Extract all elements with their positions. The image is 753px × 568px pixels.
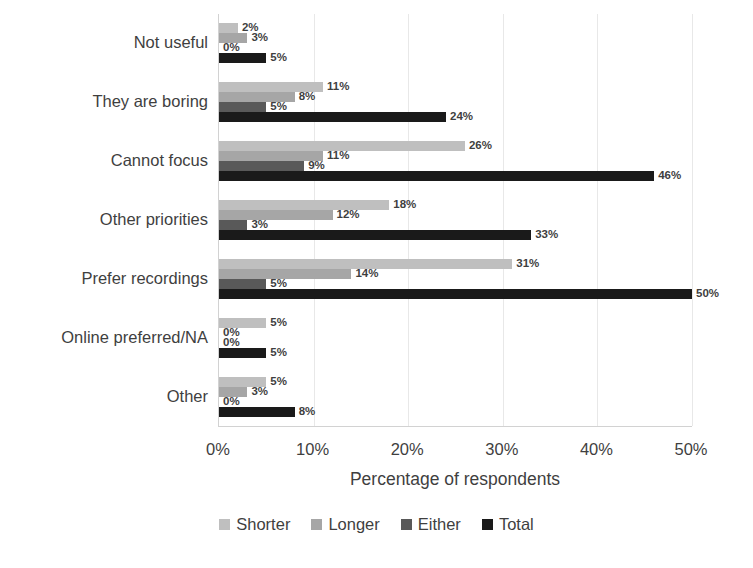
bar-row: 0% [219, 43, 692, 53]
bar-row: 8% [219, 92, 692, 102]
bar [219, 348, 266, 358]
bar-value-label: 46% [658, 170, 681, 182]
bar-row: 3% [219, 33, 692, 43]
category-label: Cannot focus [0, 152, 208, 169]
legend-label: Total [499, 516, 534, 533]
bar [219, 200, 389, 210]
legend-label: Longer [328, 516, 379, 533]
bar-row: 9% [219, 161, 692, 171]
category-label: Not useful [0, 34, 208, 51]
chart-legend: ShorterLongerEitherTotal [0, 516, 753, 533]
bar-row: 46% [219, 171, 692, 181]
bar-group: 2%3%0%5% [219, 23, 692, 63]
bar [219, 171, 654, 181]
bar-row: 11% [219, 151, 692, 161]
bar-group: 31%14%5%50% [219, 259, 692, 299]
bar-group: 26%11%9%46% [219, 141, 692, 181]
bar [219, 289, 692, 299]
x-axis-line [218, 426, 692, 427]
category-label: Other priorities [0, 211, 208, 228]
x-axis-tick-labels: 0%10%20%30%40%50% [0, 440, 753, 466]
bar-value-label: 5% [270, 53, 287, 65]
legend-swatch-icon [401, 519, 412, 530]
bar-row: 18% [219, 200, 692, 210]
bar-value-label: 33% [535, 229, 558, 241]
category-label: Prefer recordings [0, 270, 208, 287]
bar-row: 8% [219, 407, 692, 417]
legend-item[interactable]: Longer [311, 516, 379, 533]
bar [219, 161, 304, 171]
bar [219, 102, 266, 112]
legend-label: Either [418, 516, 461, 533]
bar-row: 12% [219, 210, 692, 220]
legend-swatch-icon [482, 519, 493, 530]
x-axis-title: Percentage of respondents [218, 469, 692, 490]
bar-value-label: 5% [270, 347, 287, 359]
bar [219, 210, 333, 220]
legend-item[interactable]: Either [401, 516, 461, 533]
x-tick-label: 50% [674, 440, 707, 459]
bar-row: 5% [219, 348, 692, 358]
bar-chart: Not usefulThey are boringCannot focusOth… [0, 0, 753, 568]
bar-value-label: 8% [299, 406, 316, 418]
bar-row: 5% [219, 279, 692, 289]
bar-row: 0% [219, 397, 692, 407]
bar-row: 0% [219, 338, 692, 348]
plot-wrapper: Not usefulThey are boringCannot focusOth… [0, 0, 753, 440]
gridline [692, 14, 693, 426]
bar [219, 230, 531, 240]
x-tick-label: 30% [485, 440, 518, 459]
bar-row: 24% [219, 112, 692, 122]
legend-swatch-icon [219, 519, 230, 530]
bar-row: 5% [219, 377, 692, 387]
category-label: Online preferred/NA [0, 329, 208, 346]
bar-group: 11%8%5%24% [219, 82, 692, 122]
bar [219, 220, 247, 230]
bar-group: 18%12%3%33% [219, 200, 692, 240]
bar-value-label: 24% [450, 112, 473, 124]
category-axis-labels: Not usefulThey are boringCannot focusOth… [0, 14, 208, 426]
legend-item[interactable]: Total [482, 516, 534, 533]
bar [219, 279, 266, 289]
legend-label: Shorter [236, 516, 290, 533]
bar-row: 26% [219, 141, 692, 151]
category-label: They are boring [0, 93, 208, 110]
bar-row: 0% [219, 328, 692, 338]
bar-group: 5%0%0%5% [219, 318, 692, 358]
bar [219, 407, 295, 417]
legend-swatch-icon [311, 519, 322, 530]
bar-row: 2% [219, 23, 692, 33]
bar-row: 31% [219, 259, 692, 269]
bar-row: 5% [219, 53, 692, 63]
x-tick-label: 10% [296, 440, 329, 459]
bar [219, 53, 266, 63]
bar [219, 112, 446, 122]
bar-row: 3% [219, 220, 692, 230]
bar [219, 23, 238, 33]
bar-group: 5%3%0%8% [219, 377, 692, 417]
bar-value-label: 50% [696, 288, 719, 300]
bar-row: 33% [219, 230, 692, 240]
bar-row: 11% [219, 82, 692, 92]
bar-row: 3% [219, 387, 692, 397]
plot-area: 2%3%0%5%11%8%5%24%26%11%9%46%18%12%3%33%… [218, 14, 692, 426]
category-label: Other [0, 388, 208, 405]
legend-item[interactable]: Shorter [219, 516, 290, 533]
x-tick-label: 20% [391, 440, 424, 459]
x-tick-label: 40% [580, 440, 613, 459]
x-tick-label: 0% [206, 440, 230, 459]
bar-row: 14% [219, 269, 692, 279]
bar-row: 50% [219, 289, 692, 299]
bar-row: 5% [219, 318, 692, 328]
